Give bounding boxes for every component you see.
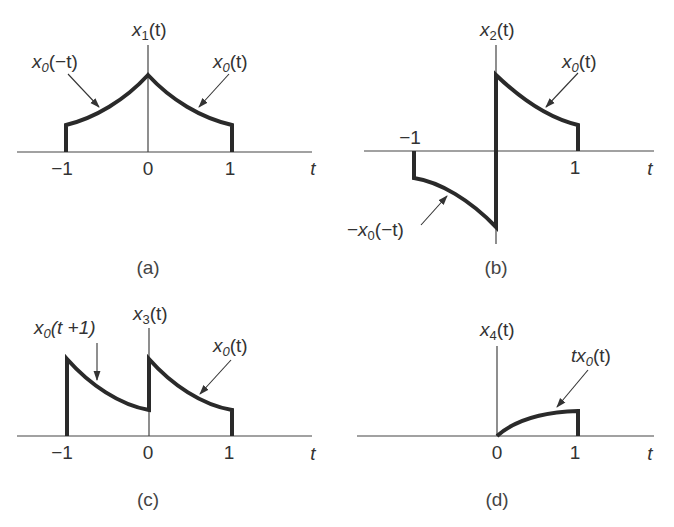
panel-caption: (c) — [137, 489, 159, 510]
figure-canvas: x1(t) x0(−t) x0(t) −1 0 1 t (a) x2(t) x0… — [0, 0, 674, 527]
panel-caption: (d) — [485, 489, 508, 510]
annotation-arrow — [200, 360, 231, 394]
signal-curve-x1 — [66, 75, 232, 152]
tick-label: 0 — [492, 442, 503, 463]
signal-figure: x1(t) x0(−t) x0(t) −1 0 1 t (a) x2(t) x0… — [0, 0, 674, 527]
panel-b: x2(t) x0(t) −x0(−t) −1 1 t (b) — [347, 19, 654, 278]
x-axis-label: t — [310, 443, 316, 464]
x-axis-label: t — [310, 158, 316, 179]
panel-caption: (a) — [136, 257, 159, 278]
annotation-label: x0(t) — [212, 335, 248, 359]
tick-label: −1 — [51, 158, 73, 179]
annotation-label: −x0(−t) — [347, 219, 404, 243]
y-axis-label: x3(t) — [132, 303, 168, 327]
annotation-arrow — [199, 74, 229, 107]
annotation-label: tx0(t) — [571, 345, 611, 369]
signal-curve-x4 — [497, 411, 578, 436]
annotation-arrow — [546, 73, 578, 107]
tick-label: 1 — [570, 442, 581, 463]
annotation-arrow — [557, 370, 588, 407]
panel-c: x3(t) x0(t +1) x0(t) −1 0 1 t (c) — [17, 303, 316, 510]
x-axis-label: t — [647, 158, 653, 179]
tick-label: 1 — [225, 158, 236, 179]
panel-caption: (b) — [484, 257, 507, 278]
tick-label: −1 — [399, 127, 421, 148]
annotation-arrow — [68, 74, 99, 107]
y-axis-label: x4(t) — [479, 319, 515, 343]
y-axis-label: x1(t) — [131, 19, 167, 43]
annotation-label: x0(t) — [212, 51, 248, 75]
tick-label: 1 — [570, 157, 581, 178]
tick-label: −1 — [51, 442, 73, 463]
x-axis-label: t — [647, 443, 653, 464]
tick-label: 0 — [143, 442, 154, 463]
annotation-label: x0(t +1) — [33, 317, 96, 341]
tick-label: 0 — [143, 158, 154, 179]
annotation-label: x0(−t) — [31, 51, 78, 75]
annotation-label: x0(t) — [561, 51, 597, 75]
panel-a: x1(t) x0(−t) x0(t) −1 0 1 t (a) — [17, 19, 316, 278]
tick-label: 1 — [224, 442, 235, 463]
annotation-arrow — [421, 196, 447, 225]
y-axis-label: x2(t) — [479, 19, 515, 43]
panel-d: x4(t) tx0(t) 0 1 t (d) — [357, 319, 654, 510]
